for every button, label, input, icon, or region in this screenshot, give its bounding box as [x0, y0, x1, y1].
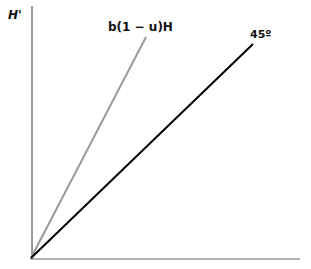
black-line-label: 45º: [250, 28, 272, 41]
y-axis-label: H': [8, 8, 22, 22]
gray-line-b1uH: [31, 37, 146, 258]
gray-line-label: b(1 − u)H: [108, 20, 173, 34]
black-line-45deg: [31, 44, 253, 258]
